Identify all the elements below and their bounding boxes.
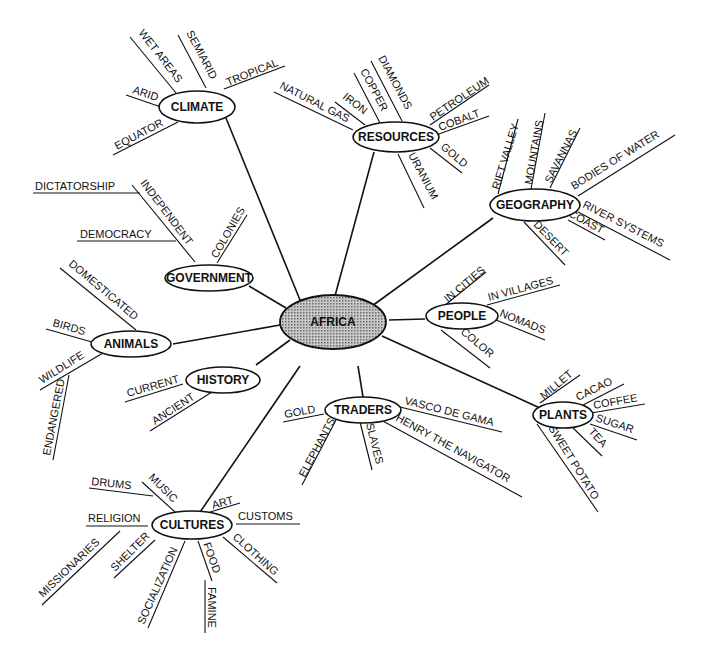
node-label-people: PEOPLE [438,309,487,323]
leaf-bodies-of-water: BODIES OF WATER [569,128,661,192]
leaf-current: CURRENT [125,372,180,398]
leaf-equator: EQUATOR [112,116,165,152]
leaf-gold-traders: GOLD [283,403,316,420]
node-label-animals: ANIMALS [104,337,159,351]
leaf-customs: CUSTOMS [238,510,293,522]
node-history: CURRENT ANCIENT HISTORY [125,367,260,431]
leaf-famine: FAMINE [206,587,218,628]
node-label-traders: TRADERS [334,403,392,417]
node-resources: NATURAL GAS IRON COPPER DIAMONDS PETROLE… [274,53,491,208]
leaf-clothing: CLOTHING [231,531,281,578]
node-label-cultures: CULTURES [160,518,224,532]
leaf-endangered: ENDANGERED [40,378,67,457]
leaf-tea: TEA [587,425,611,449]
leaf-slaves: SLAVES [364,422,386,466]
center-label: AFRICA [310,315,356,329]
leaf-savannas: SAVANNAS [542,128,579,185]
leaf-birds: BIRDS [51,316,87,337]
leaf-arid: ARID [131,83,160,103]
node-cultures: MUSIC DRUMS ART CUSTOMS RELIGION MISSION… [36,471,300,633]
node-plants: MILLET CACAO COFFEE SUGAR TEA SWEET POTA… [533,367,645,512]
leaf-democracy: DEMOCRACY [80,228,152,240]
leaf-uranium: URANIUM [406,150,441,201]
node-climate: WET AREAS SEMIARID TROPICAL ARID EQUATOR… [112,27,285,155]
leaf-mountains: MOUNTAINS [522,119,545,185]
leaf-missionaries: MISSIONARIES [36,536,102,600]
node-label-government: GOVERNMENT [166,271,253,285]
leaf-natural-gas: NATURAL GAS [278,79,352,124]
leaf-ancient: ANCIENT [150,390,197,427]
node-label-geography: GEOGRAPHY [496,198,574,212]
leaf-religion: RELIGION [88,512,141,524]
node-people: IN CITIES IN VILLAGES NOMADS COLOR PEOPL… [426,264,560,368]
leaf-henry-the-navigator: HENRY THE NAVIGATOR [394,411,513,484]
leaf-color: COLOR [459,325,497,359]
leaf-food: FOOD [201,541,223,575]
leaf-gold: GOLD [439,140,471,169]
node-label-history: HISTORY [197,373,250,387]
node-animals: DOMESTICATED BIRDS WILDLIFE ENDANGERED A… [37,257,171,460]
leaf-colonies: COLONIES [208,205,247,260]
leaf-tropical: TROPICAL [224,56,280,88]
leaf-domesticated: DOMESTICATED [67,257,141,322]
leaf-art: ART [210,494,234,511]
node-geography: RIFT VALLEY MOUNTAINS SAVANNAS BODIES OF… [489,113,675,265]
leaf-coffee: COFFEE [592,391,638,411]
leaf-desert: DESERT [532,218,572,258]
leaf-semiarid: SEMIARID [184,28,220,81]
leaf-socialization: SOCIALIZATION [135,545,180,626]
leaf-millet: MILLET [538,367,575,401]
node-traders: GOLD VASCO DE GAMA HENRY THE NAVIGATOR S… [283,394,522,497]
leaf-in-villages: IN VILLAGES [486,274,554,303]
leaf-rift-valley: RIFT VALLEY [489,121,521,190]
leaf-dictatorship: DICTATORSHIP [35,180,115,192]
leaf-music: MUSIC [147,471,181,505]
center-node-africa: AFRICA [280,295,386,349]
leaf-elephants: ELEPHANTS [296,416,337,479]
node-government: INDEPENDENT DICTATORSHIP DEMOCRACY COLON… [33,177,253,291]
concept-map: WET AREAS SEMIARID TROPICAL ARID EQUATOR… [0,0,704,668]
node-label-plants: PLANTS [539,408,587,422]
node-label-climate: CLIMATE [171,100,223,114]
leaf-in-cities: IN CITIES [442,264,488,305]
node-label-resources: RESOURCES [358,130,434,144]
